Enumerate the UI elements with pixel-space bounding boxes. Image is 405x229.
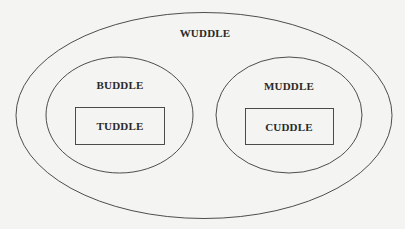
wuddle-label: WUDDLE [180,27,231,39]
containment-diagram: WUDDLE BUDDLE TUDDLE MUDDLE CUDDLE [0,0,405,229]
buddle-label: BUDDLE [96,79,143,91]
cuddle-label: CUDDLE [265,121,313,133]
muddle-ellipse [216,57,362,173]
muddle-label: MUDDLE [264,80,314,92]
tuddle-label: TUDDLE [96,120,143,132]
buddle-ellipse [46,57,193,173]
wuddle-ellipse [16,13,392,219]
